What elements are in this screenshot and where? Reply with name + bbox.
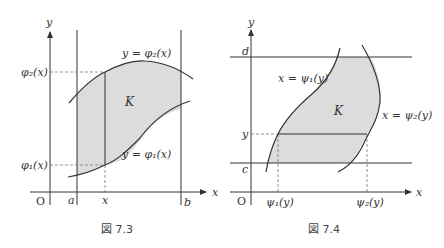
tick-a-label: a (68, 194, 75, 207)
phi1-axis-label: φ₁(x) (21, 159, 48, 172)
phi2-axis-label: φ₂(x) (21, 66, 48, 79)
x-axis-label: x (416, 186, 423, 199)
curve-psi2-label: x = ψ₂(y) (382, 109, 432, 122)
origin-label: O (36, 195, 45, 208)
tick-b-label: b (184, 196, 191, 209)
figure-7-4: y x O d y c ψ₁(y) ψ₂(y) x = ψ₁(y) x = ψ₂… (230, 16, 432, 236)
figure-caption: 図 7.3 (101, 223, 133, 236)
origin-label: O (237, 195, 246, 208)
curve-psi1-label: x = ψ₁(y) (278, 72, 328, 85)
figure-caption: 図 7.4 (308, 223, 340, 236)
tick-x-label: x (102, 194, 109, 207)
tick-d-label: d (242, 45, 249, 58)
psi2-axis-label: ψ₂(y) (356, 196, 384, 209)
y-axis-label: y (247, 16, 255, 29)
tick-c-label: c (242, 163, 248, 176)
region-k-label: K (124, 95, 135, 109)
psi1-axis-label: ψ₁(y) (266, 196, 294, 209)
y-axis-label: y (45, 16, 53, 29)
figure-7-3: y x O a x b φ₂(x) φ₁(x) y = φ₂(x) y = φ₁… (21, 16, 219, 236)
x-axis-label: x (212, 186, 219, 199)
diagram-canvas: y x O a x b φ₂(x) φ₁(x) y = φ₂(x) y = φ₁… (0, 0, 444, 248)
tick-y-label: y (241, 128, 249, 141)
curve-phi2-label: y = φ₂(x) (121, 47, 171, 60)
region-k-label: K (333, 104, 344, 118)
curve-phi1-label: y = φ₁(x) (121, 148, 171, 161)
